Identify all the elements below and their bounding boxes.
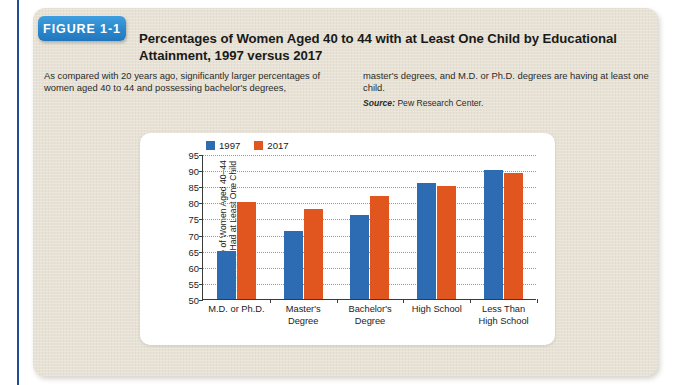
figure-caption-right: master's degrees, and M.D. or Ph.D. degr… [363,70,653,109]
bar-group [203,155,270,299]
bar-group [403,155,470,299]
bar-1997 [484,170,503,299]
y-tick-label: 90 [189,166,199,177]
y-tick-label: 85 [189,182,199,193]
x-tick-label-line: Degree [328,316,412,328]
bar-2017 [504,173,523,299]
figure-title: Percentages of Women Aged 40 to 44 with … [139,30,639,64]
legend-entry-2017: 2017 [254,140,288,151]
figure-number-badge: FIGURE 1-1 [38,16,126,41]
caption-right-text: master's degrees, and M.D. or Ph.D. degr… [363,70,649,93]
bar-2017 [304,209,323,299]
y-tick-mark [199,300,203,301]
bar-1997 [217,251,236,299]
x-tick-mark [270,299,271,303]
x-tick-mark [337,299,338,303]
y-tick-label: 60 [189,262,199,273]
y-tick-label: 70 [189,230,199,241]
legend-label: 2017 [267,140,288,151]
x-tick-mark [403,299,404,303]
caption-left-text: As compared with 20 years ago, significa… [44,70,320,93]
chart-legend: 19972017 [206,140,289,151]
legend-swatch-icon-1997 [206,141,215,150]
figure-source: Source: Pew Research Center. [363,97,653,109]
y-tick-label: 65 [189,246,199,257]
bar-2017 [370,196,389,299]
bar-group [337,155,404,299]
bar-group [470,155,537,299]
x-tick-label: Less ThanHigh School [462,304,546,327]
y-tick-label: 55 [189,278,199,289]
bar-2017 [237,202,256,299]
x-tick-label-line: Less Than [462,304,546,316]
page-spine-rule [17,0,19,385]
bar-2017 [437,186,456,299]
bar-group [270,155,337,299]
source-label: Source: [363,98,395,108]
x-tick-label-line: High School [462,316,546,328]
y-tick-label: 95 [189,150,199,161]
legend-label: 1997 [219,140,240,151]
chart-card: 19972017 Percentage of Women Aged 40–44 … [140,133,555,345]
y-tick-label: 80 [189,198,199,209]
x-tick-mark [470,299,471,303]
legend-swatch-icon-2017 [254,141,263,150]
plot-area: Percentage of Women Aged 40–44 Who Have … [202,155,536,300]
source-text: Pew Research Center. [395,98,483,108]
y-tick-label: 75 [189,214,199,225]
bar-1997 [350,215,369,299]
bar-1997 [284,231,303,299]
figure-caption-left: As compared with 20 years ago, significa… [44,70,344,95]
bar-1997 [417,183,436,299]
x-tick-mark [537,299,538,303]
legend-entry-1997: 1997 [206,140,240,151]
